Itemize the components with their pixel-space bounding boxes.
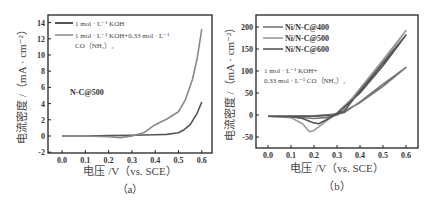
condition-annotation: 1 mol · L⁻¹ KOH+ — [264, 67, 317, 75]
x-tick-label: 0.1 — [286, 151, 296, 160]
y-tick-label: 4 — [41, 100, 45, 109]
x-tick-label: 0.3 — [127, 156, 137, 165]
y-axis-label: 电流密度 /（mA · cm⁻²） — [223, 22, 236, 141]
figure: 0.00.10.20.30.40.50.6-202468101214电压 /V（… — [0, 0, 436, 206]
legend-entry: 1 mol · L⁻¹ KOH — [75, 20, 124, 28]
y-tick-label: 12 — [37, 35, 45, 44]
y-tick-label: 100 — [241, 67, 253, 76]
x-tick-label: 0.5 — [378, 151, 388, 160]
legend-entry: 1 mol · L⁻¹ KOH+0.33 mol · L⁻¹ — [75, 32, 169, 40]
y-tick-label: 8 — [41, 67, 45, 76]
condition-annotation: 0.33 mol · L⁻¹ CO（NH₂）₂ — [264, 77, 346, 85]
x-tick-label: 0.0 — [57, 156, 67, 165]
x-tick-label: 0.0 — [263, 151, 273, 160]
y-tick-label: 10 — [37, 51, 45, 60]
sample-annotation: N-C@500 — [70, 88, 104, 97]
legend-entry-cont: CO（NH₂）₂ — [75, 42, 114, 50]
x-tick-label: 0.6 — [401, 151, 411, 160]
y-tick-label: 0 — [249, 111, 253, 120]
y-axis-label: 电流密度 /（mA · cm⁻²） — [15, 24, 28, 143]
x-axis-label: 电压 /V（vs. SCE） — [290, 162, 383, 174]
panel-label: （a） — [117, 183, 144, 195]
legend-entry: Ni/N-C@600 — [285, 45, 329, 54]
y-tick-label: 14 — [37, 19, 45, 28]
x-tick-label: 0.5 — [174, 156, 184, 165]
x-axis-label: 电压 /V（vs. SCE） — [83, 165, 176, 177]
y-tick-label: 2 — [41, 116, 45, 125]
legend-entry: Ni/N-C@400 — [285, 23, 329, 32]
x-tick-label: 0.3 — [332, 151, 342, 160]
y-tick-label: 0 — [41, 132, 45, 141]
y-tick-label: 200 — [241, 23, 253, 32]
y-tick-label: -2 — [38, 148, 45, 157]
x-tick-label: 0.4 — [355, 151, 365, 160]
y-tick-label: 150 — [241, 45, 253, 54]
chart-panel-b: 0.00.10.20.30.40.50.6-50050100150200电压 /… — [223, 15, 418, 192]
chart-panel-a: 0.00.10.20.30.40.50.6-202468101214电压 /V（… — [15, 15, 212, 195]
y-tick-label: 6 — [41, 83, 45, 92]
y-tick-label: 50 — [245, 89, 253, 98]
x-tick-label: 0.6 — [197, 156, 207, 165]
legend-entry: Ni/N-C@500 — [285, 34, 329, 43]
series-line-0 — [268, 68, 406, 119]
y-tick-label: -50 — [242, 133, 253, 142]
x-tick-label: 0.4 — [150, 156, 160, 165]
x-tick-label: 0.1 — [80, 156, 90, 165]
panel-label: （b） — [323, 180, 351, 192]
x-tick-label: 0.2 — [309, 151, 319, 160]
x-tick-label: 0.2 — [104, 156, 114, 165]
